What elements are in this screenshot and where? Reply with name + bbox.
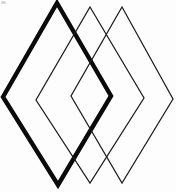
diamond-thick-left (3, 3, 111, 185)
diamond-figure (0, 0, 176, 192)
diamond-thin-middle (36, 7, 144, 183)
corner-smudge (1, 1, 6, 4)
diamond-thin-right (71, 7, 173, 183)
diamond-canvas (0, 0, 176, 192)
